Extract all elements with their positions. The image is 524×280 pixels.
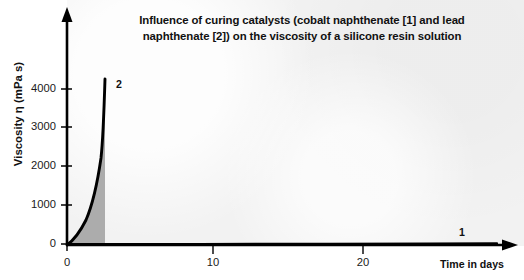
chart-title-line-2: naphthenate [2]) on the viscosity of a s…: [143, 30, 461, 42]
x-tick-label-10: 10: [193, 256, 233, 268]
series-label-2: 2: [116, 78, 122, 90]
x-tick-label-0: 0: [47, 256, 87, 268]
curve-1-line: [67, 243, 497, 244]
y-axis-arrow-icon: [62, 7, 73, 22]
y-tick-label-2000: 2000: [0, 159, 56, 171]
x-axis-label: Time in days: [440, 258, 504, 270]
y-tick-label-4000: 4000: [0, 82, 56, 94]
y-tick-label-1000: 1000: [0, 198, 56, 210]
chart-title: Influence of curing catalysts (cobalt na…: [92, 13, 512, 44]
x-tick-marks: [67, 240, 363, 254]
x-axis-arrow-icon: [502, 240, 518, 251]
series-label-1: 1: [459, 226, 465, 238]
y-tick-label-3000: 3000: [0, 120, 56, 132]
y-tick-label-0: 0: [0, 237, 56, 249]
chart-figure: Influence of curing catalysts (cobalt na…: [0, 0, 524, 280]
x-tick-label-20: 20: [343, 256, 383, 268]
chart-title-line-1: Influence of curing catalysts (cobalt na…: [139, 14, 464, 26]
